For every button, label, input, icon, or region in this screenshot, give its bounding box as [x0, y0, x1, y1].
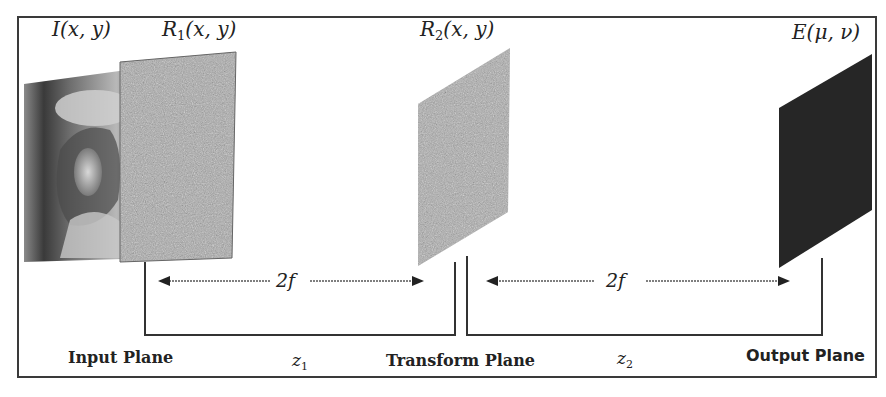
arrowhead-left-2: [486, 276, 498, 286]
label-input-image: I(x, y): [52, 19, 111, 39]
distance-label-second: 2f: [602, 271, 629, 290]
axis-label-z1: z1: [292, 352, 308, 372]
bracket-z1: [145, 262, 455, 335]
phase-mask-r1: [118, 50, 238, 264]
axis-label-z2: z2: [617, 350, 633, 370]
transform-plane-label: Transform Plane: [386, 353, 535, 369]
bracket-z2: [467, 256, 822, 335]
arrowhead-left-1: [158, 276, 170, 286]
label-phase-mask-1: R1(x, y): [162, 19, 236, 42]
distance-brackets: [145, 256, 822, 335]
input-plane-label: Input Plane: [68, 350, 173, 366]
distance-label-first: 2f: [272, 271, 299, 290]
phase-mask-r2: [416, 46, 512, 268]
arrowhead-right-1: [412, 276, 424, 286]
label-phase-mask-2: R2(x, y): [420, 19, 494, 42]
label-output-field: E(μ, ν): [792, 22, 860, 42]
output-plane-label: Output Plane: [746, 348, 865, 364]
optical-diagram: [0, 0, 886, 397]
arrowhead-right-2: [778, 276, 790, 286]
output-plane-panel: [779, 54, 872, 268]
